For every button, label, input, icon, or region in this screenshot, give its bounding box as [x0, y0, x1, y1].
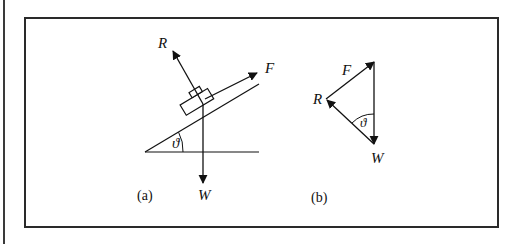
angle-label-a: ϑ: [172, 135, 181, 151]
block: [177, 83, 214, 115]
reaction-label-a: R: [157, 35, 167, 51]
reaction-label-b: R: [312, 91, 322, 107]
panel-a: ϑ R F W (a): [137, 35, 275, 204]
panel-b: F R W ϑ (b): [311, 62, 385, 206]
force-label-b: F: [341, 62, 352, 78]
angle-label-b: ϑ: [360, 115, 367, 130]
force-diagram: ϑ R F W (a) F R W ϑ (b): [0, 0, 523, 244]
weight-label-b: W: [371, 150, 385, 166]
weight-label-a: W: [198, 187, 212, 203]
reaction-arrow-a: [173, 51, 203, 104]
reaction-arrow-b: [327, 100, 374, 144]
caption-a: (a): [137, 188, 153, 204]
force-label-a: F: [264, 60, 275, 76]
force-arrow-a: [205, 73, 257, 99]
caption-b: (b): [311, 190, 328, 206]
